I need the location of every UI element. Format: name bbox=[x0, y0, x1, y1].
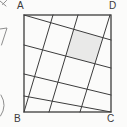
vertex-label-a: A bbox=[17, 1, 24, 11]
vertex-label-d: D bbox=[109, 1, 116, 11]
shaded-cell bbox=[66, 29, 103, 63]
vertex-label-b: B bbox=[14, 114, 21, 124]
cropped-glyph-middle bbox=[0, 28, 7, 45]
grid-line-steep bbox=[24, 15, 53, 112]
grid-line-steep bbox=[49, 15, 78, 112]
cropped-glyph-top bbox=[0, 1, 7, 7]
grid-line-shallow bbox=[24, 15, 111, 40]
vertex-label-c: C bbox=[107, 114, 114, 124]
grid-line-shallow bbox=[24, 96, 111, 112]
geometry-figure bbox=[0, 0, 127, 127]
figure-canvas: A D B C bbox=[0, 0, 127, 127]
grid-line-steep bbox=[80, 15, 110, 112]
square-outline bbox=[24, 15, 111, 112]
cropped-glyph-bottom-arc bbox=[1, 95, 5, 116]
grid-line-shallow bbox=[24, 74, 111, 95]
